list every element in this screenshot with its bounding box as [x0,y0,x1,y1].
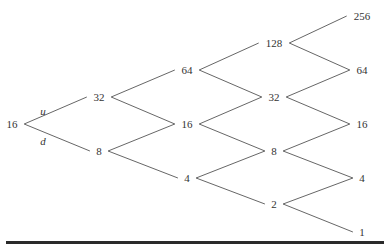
tree-node: 4 [359,173,365,184]
tree-edge [199,97,262,124]
tree-edge [283,204,353,232]
tree-edge [283,124,350,151]
tree-node: 4 [184,173,190,184]
tree-edge [199,70,262,97]
tree-edge [24,97,87,124]
tree-node: 2 [271,199,277,210]
tree-node: 1 [359,227,365,238]
bottom-rule [6,241,384,244]
tree-edge [196,151,265,178]
tree-edge [196,178,265,204]
tree-node: 256 [354,11,371,22]
tree-edge [111,70,175,97]
tree-node: 128 [266,38,283,49]
tree-node: 64 [182,65,193,76]
tree-edge [289,43,350,70]
tree-edge [111,97,175,124]
tree-node: 8 [271,146,277,157]
tree-edge [283,151,353,178]
tree-node: 32 [94,92,105,103]
tree-node: 8 [96,146,102,157]
tree-edge [108,151,178,178]
tree-node: 16 [357,119,368,130]
tree-edge [24,124,90,151]
tree-edge [283,178,353,204]
tree-edge [286,97,350,124]
tree-edge [199,124,265,151]
tree-node: 32 [269,92,280,103]
tree-node: 16 [182,119,193,130]
tree-edge [289,16,346,43]
tree-edge [199,43,259,70]
up-edge-label: u [40,106,46,117]
down-edge-label: d [40,136,46,147]
tree-node: 64 [357,65,368,76]
tree-node: 16 [7,119,18,130]
tree-edge [108,124,175,151]
tree-edge [286,70,350,97]
